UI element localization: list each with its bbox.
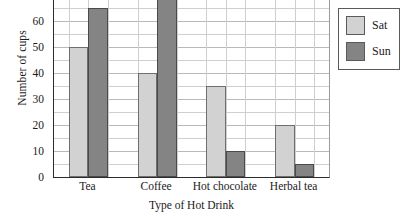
bar-chart: Number of cups 010203040506070 TeaCoffee… <box>0 0 407 216</box>
y-axis-tick-label: 30 <box>14 94 44 104</box>
bar-herbal-tea-sat <box>275 125 295 177</box>
legend-item-sun: Sun <box>346 42 391 61</box>
x-axis-tick-label: Coffee <box>141 180 172 192</box>
legend-label-sun: Sun <box>372 42 391 61</box>
bar-tea-sat <box>69 47 89 177</box>
gridline-horizontal <box>54 177 329 178</box>
legend-label-sat: Sat <box>372 16 387 35</box>
y-axis-tick-label: 50 <box>14 42 44 52</box>
gridline-vertical <box>295 0 296 177</box>
chart-legend: Sat Sun <box>338 8 400 70</box>
y-axis-tick-label: 20 <box>14 120 44 130</box>
bar-coffee-sun <box>157 0 177 177</box>
y-axis-tick-labels: 010203040506070 <box>14 0 44 178</box>
legend-swatch-sun <box>346 42 365 61</box>
gridline-vertical <box>314 0 315 177</box>
plot-area <box>53 0 330 178</box>
bar-coffee-sat <box>138 73 158 177</box>
bar-tea-sun <box>88 8 108 177</box>
x-axis-tick-label: Tea <box>79 180 95 192</box>
bar-herbal-tea-sun <box>295 164 315 177</box>
x-axis-title: Type of Hot Drink <box>53 199 330 211</box>
y-axis-tick-label: 0 <box>14 172 44 182</box>
x-axis-tick-label: Herbal tea <box>270 180 318 192</box>
bar-hot-chocolate-sat <box>206 86 226 177</box>
legend-item-sat: Sat <box>346 16 387 35</box>
bar-hot-chocolate-sun <box>226 151 246 177</box>
x-axis-tick-label: Hot chocolate <box>193 180 257 192</box>
x-axis-tick-labels: TeaCoffeeHot chocolateHerbal tea <box>53 180 330 196</box>
y-axis-tick-label: 10 <box>14 146 44 156</box>
y-axis-tick-label: 40 <box>14 68 44 78</box>
gridline-vertical <box>177 0 178 177</box>
gridline-vertical <box>108 0 109 177</box>
y-axis-tick-label: 60 <box>14 16 44 26</box>
legend-swatch-sat <box>346 16 365 35</box>
